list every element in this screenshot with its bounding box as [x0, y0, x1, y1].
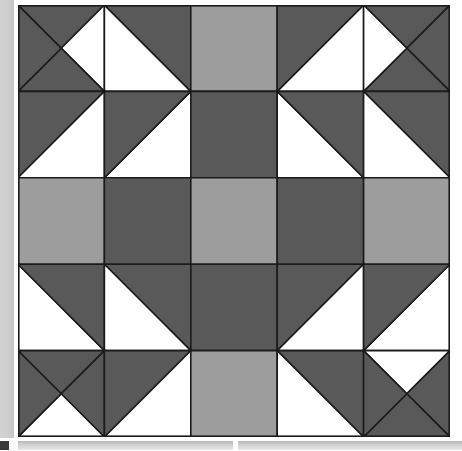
screen-canvas	[0, 0, 462, 451]
horizontal-scrollbar-right[interactable]	[238, 441, 462, 450]
top-center-square[interactable]	[191, 5, 277, 91]
status-chip[interactable]	[0, 441, 9, 450]
vertical-scrollbar[interactable]	[0, 0, 14, 438]
inner-bottom-square[interactable]	[191, 264, 277, 350]
bottom-center-square[interactable]	[191, 351, 277, 437]
inner-right-square[interactable]	[277, 178, 363, 264]
horizontal-scrollbar-left[interactable]	[18, 441, 233, 450]
inner-top-square[interactable]	[191, 91, 277, 177]
center-square[interactable]	[191, 178, 277, 264]
right-mid-square[interactable]	[364, 178, 450, 264]
left-mid-square[interactable]	[18, 178, 104, 264]
quilt-block-canvas[interactable]	[18, 5, 450, 437]
inner-left-square[interactable]	[104, 178, 190, 264]
